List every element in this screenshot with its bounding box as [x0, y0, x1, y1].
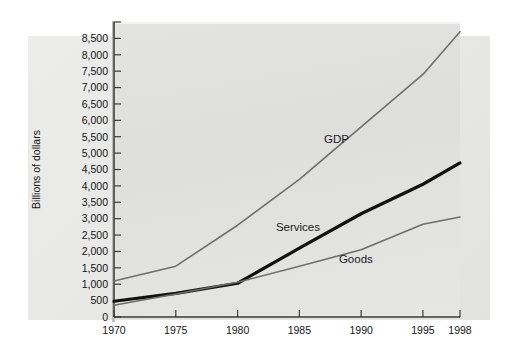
x-tick-label: 1985: [288, 324, 312, 336]
x-tick-labels: 1970197519801985199019951998: [102, 324, 472, 336]
y-tick-label: 4,000: [82, 180, 108, 192]
x-tick-label: 1990: [349, 324, 373, 336]
chart-figure: 05001,0001,5002,0002,5003,0003,5004,0004…: [0, 0, 530, 358]
y-tick-label: 6,000: [82, 114, 108, 126]
series-label-goods: Goods: [339, 253, 373, 265]
y-axis-group: 05001,0001,5002,0002,5003,0003,5004,0004…: [82, 22, 121, 323]
series-line-gdp: [114, 32, 460, 281]
series-label-services: Services: [276, 221, 320, 233]
y-tick-label: 2,500: [82, 229, 108, 241]
x-tick-label: 1980: [226, 324, 250, 336]
x-tick-label: 1970: [102, 324, 126, 336]
y-tick-label: 1,000: [82, 278, 108, 290]
y-tick-label: 500: [90, 294, 108, 306]
chart-canvas: 05001,0001,5002,0002,5003,0003,5004,0004…: [0, 0, 530, 358]
y-tick-label: 7,000: [82, 81, 108, 93]
y-tick-label: 6,500: [82, 98, 108, 110]
series-labels: GDPServicesGoods: [276, 133, 373, 265]
series-lines: [114, 32, 460, 305]
x-tick-label: 1998: [448, 324, 472, 336]
series-label-gdp: GDP: [324, 133, 349, 145]
y-tick-label: 4,500: [82, 163, 108, 175]
y-tick-label: 1,500: [82, 262, 108, 274]
y-tick-label: 3,000: [82, 212, 108, 224]
y-tick-label: 5,000: [82, 147, 108, 159]
x-tick-label: 1995: [411, 324, 435, 336]
y-tick-label: 0: [102, 311, 108, 323]
y-tick-labels: 05001,0001,5002,0002,5003,0003,5004,0004…: [82, 32, 108, 323]
x-tick-marks: [114, 310, 460, 317]
y-tick-marks: [114, 22, 121, 317]
x-axis-group: 1970197519801985199019951998: [102, 310, 472, 336]
y-tick-label: 2,000: [82, 245, 108, 257]
y-tick-label: 7,500: [82, 65, 108, 77]
y-tick-label: 8,000: [82, 49, 108, 61]
x-tick-label: 1975: [164, 324, 188, 336]
y-tick-label: 8,500: [82, 32, 108, 44]
y-tick-label: 5,500: [82, 131, 108, 143]
y-axis-title: Billions of dollars: [30, 130, 42, 209]
y-tick-label: 3,500: [82, 196, 108, 208]
